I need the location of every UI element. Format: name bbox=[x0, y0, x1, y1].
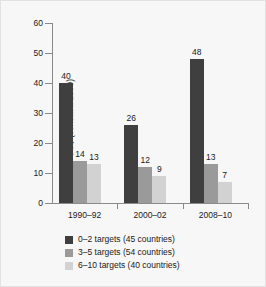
y-axis-tick-label: 30 bbox=[1, 109, 52, 118]
y-axis-tick-label: 60 bbox=[1, 19, 52, 28]
chart-legend: 0–2 targets (45 countries)3–5 targets (5… bbox=[65, 233, 180, 272]
legend-label: 0–2 targets (45 countries) bbox=[78, 235, 175, 244]
bar-value-label: 13 bbox=[81, 153, 107, 162]
bar bbox=[152, 176, 166, 203]
bar-value-label: 40 bbox=[53, 72, 79, 81]
legend-item[interactable]: 0–2 targets (45 countries) bbox=[65, 233, 180, 246]
bar bbox=[73, 161, 87, 203]
x-axis-tick bbox=[117, 204, 118, 209]
x-axis-tick-label: 2008–10 bbox=[183, 211, 247, 220]
y-axis-tick-label: 20 bbox=[1, 139, 52, 148]
plot-area: US$ (constant 2009) 4014132612948137 bbox=[52, 23, 248, 203]
x-axis-tick-label: 2000–02 bbox=[118, 211, 182, 220]
legend-swatch-icon bbox=[65, 249, 73, 257]
bar bbox=[218, 182, 232, 203]
legend-label: 3–5 targets (54 countries) bbox=[78, 248, 175, 257]
bar bbox=[87, 164, 101, 203]
bar-value-label: 12 bbox=[132, 156, 158, 165]
bar bbox=[190, 59, 204, 203]
bar-value-label: 7 bbox=[212, 171, 238, 180]
x-axis-tick-label: 1990–92 bbox=[53, 211, 117, 220]
x-axis-tick bbox=[183, 204, 184, 209]
legend-item[interactable]: 3–5 targets (54 countries) bbox=[65, 246, 180, 259]
legend-swatch-icon bbox=[65, 262, 73, 270]
y-axis-tick-label: 50 bbox=[1, 49, 52, 58]
bar bbox=[59, 83, 73, 203]
chart-figure: 6050403020100 US$ (constant 2009) 401413… bbox=[0, 0, 266, 287]
y-axis-tick-label: 40 bbox=[1, 79, 52, 88]
y-axis-tick-label: 0 bbox=[1, 199, 52, 208]
bar-value-label: 13 bbox=[198, 153, 224, 162]
x-axis-tick bbox=[248, 204, 249, 209]
legend-item[interactable]: 6–10 targets (40 countries) bbox=[65, 259, 180, 272]
x-axis-line bbox=[52, 203, 249, 204]
bar-value-label: 48 bbox=[184, 48, 210, 57]
y-axis-tick-label: 10 bbox=[1, 169, 52, 178]
legend-label: 6–10 targets (40 countries) bbox=[78, 261, 180, 270]
bar-value-label: 26 bbox=[118, 114, 144, 123]
bar-value-label: 9 bbox=[146, 165, 172, 174]
bar bbox=[204, 164, 218, 203]
legend-swatch-icon bbox=[65, 236, 73, 244]
